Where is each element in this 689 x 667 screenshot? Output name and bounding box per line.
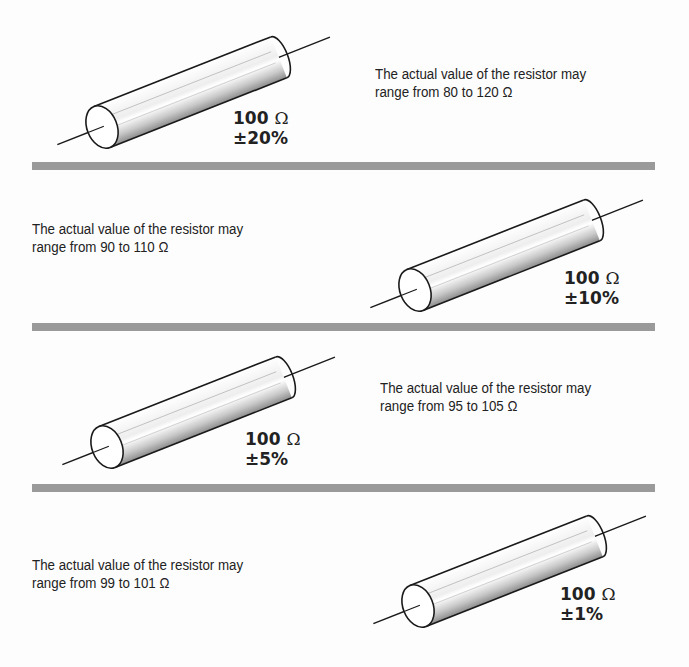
tolerance-value: ±10% <box>564 288 620 308</box>
resistance-label: 100Ω ±10% <box>564 268 620 308</box>
resistance-label: 100Ω ±20% <box>233 108 289 148</box>
description-line: range from 80 to 120 Ω <box>375 83 586 101</box>
range-description: The actual value of the resistor may ran… <box>32 220 243 256</box>
tolerance-value: ±1% <box>560 604 616 624</box>
section-divider <box>32 484 655 492</box>
description-line: The actual value of the resistor may <box>375 65 586 83</box>
description-line: The actual value of the resistor may <box>380 379 591 397</box>
description-line: range from 99 to 101 Ω <box>32 574 243 592</box>
ohm-symbol: Ω <box>287 429 301 449</box>
description-line: range from 90 to 110 Ω <box>32 238 243 256</box>
description-line: range from 95 to 105 Ω <box>380 397 591 415</box>
nominal-value: 100 <box>564 268 600 288</box>
tolerance-value: ±20% <box>233 128 289 148</box>
ohm-symbol: Ω <box>602 584 616 604</box>
range-description: The actual value of the resistor may ran… <box>380 379 591 415</box>
description-line: The actual value of the resistor may <box>32 220 243 238</box>
section-divider <box>32 323 655 331</box>
tolerance-value: ±5% <box>245 449 301 469</box>
nominal-value: 100 <box>245 429 281 449</box>
ohm-symbol: Ω <box>606 268 620 288</box>
range-description: The actual value of the resistor may ran… <box>32 556 243 592</box>
range-description: The actual value of the resistor may ran… <box>375 65 586 101</box>
nominal-value: 100 <box>560 584 596 604</box>
description-line: The actual value of the resistor may <box>32 556 243 574</box>
section-divider <box>32 162 655 170</box>
ohm-symbol: Ω <box>275 108 289 128</box>
nominal-value: 100 <box>233 108 269 128</box>
resistance-label: 100Ω ±1% <box>560 584 616 624</box>
resistance-label: 100Ω ±5% <box>245 429 301 469</box>
